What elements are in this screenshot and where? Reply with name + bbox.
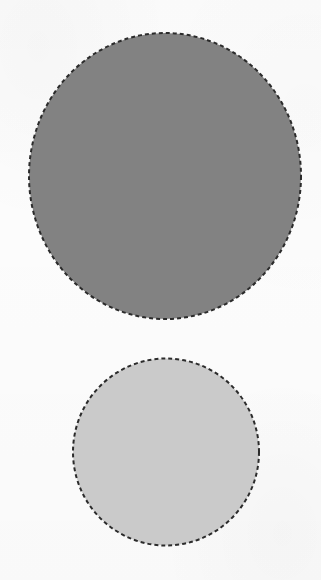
shapes-svg bbox=[0, 0, 321, 580]
small-dashed-circle bbox=[73, 359, 259, 546]
large-dashed-circle bbox=[29, 33, 301, 319]
shape-layer bbox=[0, 0, 321, 580]
image-canvas bbox=[0, 0, 321, 580]
